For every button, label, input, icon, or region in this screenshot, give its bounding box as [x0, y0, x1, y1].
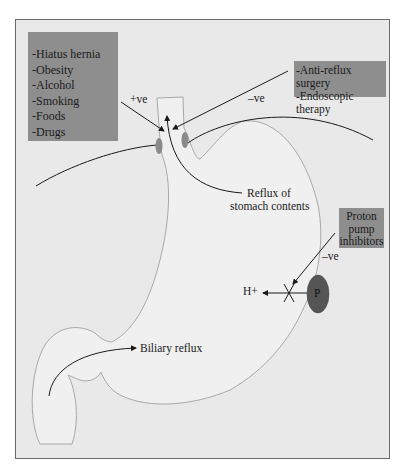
sphincter-right [182, 132, 189, 148]
risk-factor-item: -Obesity [32, 63, 118, 79]
biliary-reflux-label: Biliary reflux [140, 342, 202, 355]
therapy-item: -Anti-reflux surgery [296, 64, 386, 90]
ppi-box: Proton pump inhibitors [339, 208, 384, 248]
diaphragm-left [36, 145, 157, 186]
ppi-line: inhibitors [339, 235, 384, 248]
ppi-effect-label: –ve [322, 250, 339, 263]
therapies-box: -Anti-reflux surgery -Endoscopic therapy [294, 61, 386, 97]
risk-factors-box: -Hiatus hernia -Obesity -Alcohol -Smokin… [28, 32, 118, 141]
risk-factor-item: -Alcohol [32, 78, 118, 94]
pump-label: P [314, 287, 320, 300]
risk-factor-item: -Drugs [32, 125, 118, 141]
risk-factor-item: -Smoking [32, 94, 118, 110]
reflux-label-line1: Reflux of [247, 187, 291, 200]
risk-factor-item: -Foods [32, 109, 118, 125]
ppi-line: Proton [339, 210, 384, 223]
reflux-label-line2: stomach contents [230, 200, 310, 213]
negative-effect-arrow [173, 71, 288, 129]
therapy-item: -Endoscopic therapy [296, 90, 386, 116]
h-plus-label: H+ [243, 285, 258, 298]
stomach-outline [32, 97, 321, 444]
positive-effect-label: +ve [130, 93, 147, 106]
negative-effect-label: –ve [248, 92, 265, 105]
sphincter-left [156, 138, 163, 154]
risk-factor-item: -Hiatus hernia [32, 47, 118, 63]
ppi-line: pump [339, 223, 384, 236]
